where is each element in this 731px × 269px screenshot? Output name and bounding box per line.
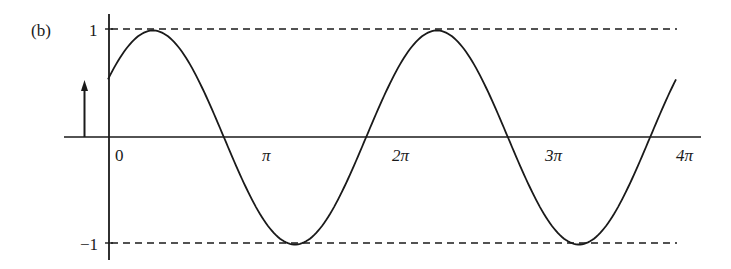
up-arrow-icon <box>81 80 88 137</box>
x-tick-label-3pi: 3π <box>545 147 562 164</box>
sinusoid-plot <box>0 0 731 269</box>
panel-label: (b) <box>31 22 51 39</box>
x-tick-label-4pi: 4π <box>676 147 693 164</box>
y-tick-label-neg1: −1 <box>80 236 98 253</box>
x-tick-label-pi: π <box>262 147 271 164</box>
x-tick-label-2pi: 2π <box>392 147 409 164</box>
x-tick-label-0: 0 <box>115 147 124 164</box>
y-tick-label-1: 1 <box>89 22 98 39</box>
